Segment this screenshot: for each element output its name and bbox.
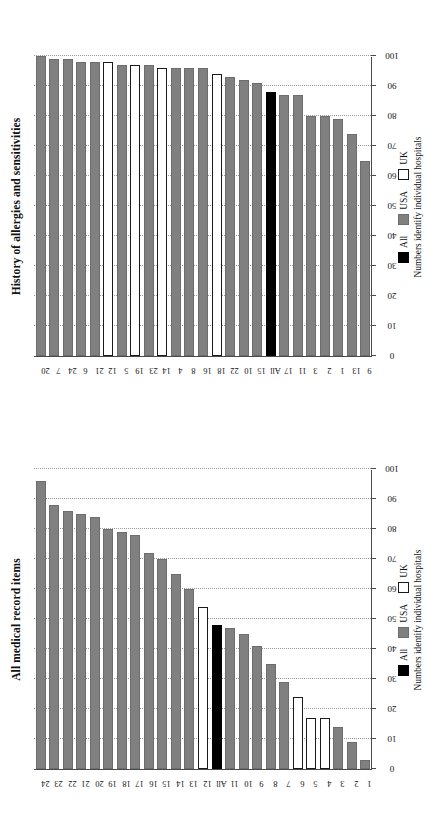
plot-area-wrapper: Per cent meeting screening criteria 0102… bbox=[34, 470, 372, 770]
axis-tick bbox=[371, 528, 376, 529]
legend: AllUSAUK Numbers identify individual hos… bbox=[398, 470, 423, 770]
legend-item-uk: UK bbox=[398, 151, 409, 180]
category-label: 24 bbox=[68, 366, 76, 375]
category-label: 23 bbox=[55, 779, 63, 788]
legend-swatch-uk-icon bbox=[398, 582, 409, 593]
bar bbox=[212, 625, 222, 769]
category-label: 22 bbox=[68, 779, 76, 788]
bar bbox=[239, 80, 249, 356]
category-label: 6 bbox=[300, 779, 304, 788]
category-label: 5 bbox=[314, 779, 318, 788]
bar bbox=[90, 62, 100, 356]
bar bbox=[171, 574, 181, 769]
category-label: 8 bbox=[273, 779, 277, 788]
axis-tick bbox=[371, 738, 376, 739]
bar bbox=[184, 589, 194, 769]
axis-tick bbox=[371, 588, 376, 589]
bar bbox=[266, 92, 276, 356]
axis-tick-label: 80 bbox=[388, 524, 397, 534]
category-label: 4 bbox=[327, 779, 331, 788]
axis-tick bbox=[371, 618, 376, 619]
bar bbox=[130, 65, 140, 356]
category-label: 7 bbox=[57, 366, 61, 375]
bar bbox=[347, 134, 357, 356]
axis-tick-label: 10 bbox=[388, 321, 397, 331]
legend-swatch-usa-icon bbox=[398, 627, 409, 638]
category-label: 11 bbox=[298, 366, 306, 375]
bar bbox=[103, 529, 113, 769]
bar bbox=[360, 161, 370, 356]
legend-label: USA bbox=[399, 604, 409, 623]
bar bbox=[252, 646, 262, 769]
category-label: 3 bbox=[341, 779, 345, 788]
axis-tick-label: 20 bbox=[388, 291, 397, 301]
category-label: 12 bbox=[109, 366, 117, 375]
category-label: 12 bbox=[203, 779, 211, 788]
axis-tick-label: 90 bbox=[388, 81, 397, 91]
figure-stage: All medical record items Per cent meetin… bbox=[0, 0, 436, 826]
bar bbox=[360, 760, 370, 769]
category-label: 19 bbox=[136, 366, 144, 375]
category-label: 16 bbox=[149, 779, 157, 788]
category-label: All bbox=[270, 366, 281, 375]
legend-item-all: All bbox=[398, 649, 409, 676]
bar bbox=[157, 68, 167, 356]
legend-items: AllUSAUK bbox=[398, 57, 409, 357]
legend-label: USA bbox=[399, 191, 409, 210]
category-label: 9 bbox=[368, 366, 372, 375]
axis-tick bbox=[371, 175, 376, 176]
category-label: 20 bbox=[41, 366, 49, 375]
axis-tick-label: 80 bbox=[388, 111, 397, 121]
axis-tick bbox=[371, 265, 376, 266]
bar bbox=[320, 718, 330, 769]
category-label: 15 bbox=[163, 779, 171, 788]
axis-tick-label: 30 bbox=[388, 674, 397, 684]
legend-item-usa: USA bbox=[398, 191, 409, 225]
legend-items: AllUSAUK bbox=[398, 470, 409, 770]
category-label: 22 bbox=[230, 366, 238, 375]
plot-area: 0102030405060708090100 bbox=[34, 57, 372, 357]
bar bbox=[49, 59, 59, 356]
axis-tick bbox=[371, 115, 376, 116]
axis-tick-label: 0 bbox=[390, 764, 395, 774]
axis-tick bbox=[371, 145, 376, 146]
category-label: 9 bbox=[259, 779, 263, 788]
axis-tick-label: 20 bbox=[388, 704, 397, 714]
bar bbox=[63, 59, 73, 356]
legend-item-usa: USA bbox=[398, 604, 409, 638]
chart-panel-all-medical-record-items: All medical record items Per cent meetin… bbox=[0, 413, 436, 826]
bar bbox=[293, 95, 303, 356]
bar bbox=[184, 68, 194, 356]
category-label: 17 bbox=[284, 366, 292, 375]
category-label: 2 bbox=[354, 779, 358, 788]
legend-swatch-all-icon bbox=[398, 252, 409, 263]
axis-tick bbox=[371, 55, 376, 56]
axis-tick-label: 10 bbox=[388, 734, 397, 744]
gridline bbox=[34, 498, 371, 499]
category-label: All bbox=[216, 779, 227, 788]
axis-tick-label: 70 bbox=[388, 554, 397, 564]
axis-tick bbox=[371, 325, 376, 326]
legend-swatch-usa-icon bbox=[398, 214, 409, 225]
category-label: 20 bbox=[95, 779, 103, 788]
bar bbox=[130, 535, 140, 769]
category-label: 10 bbox=[244, 366, 252, 375]
gridline bbox=[34, 468, 371, 469]
axis-tick bbox=[371, 648, 376, 649]
bar bbox=[279, 682, 289, 769]
axis-tick-label: 0 bbox=[390, 351, 395, 361]
category-label: 16 bbox=[203, 366, 211, 375]
bar bbox=[225, 77, 235, 356]
category-label: 6 bbox=[84, 366, 88, 375]
legend-label: UK bbox=[399, 151, 409, 165]
axis-tick-label: 30 bbox=[388, 261, 397, 271]
axis-tick bbox=[371, 355, 376, 356]
bar bbox=[76, 514, 86, 769]
category-label: 24 bbox=[41, 779, 49, 788]
bar bbox=[36, 56, 46, 356]
bar bbox=[117, 65, 127, 356]
axis-tick bbox=[371, 768, 376, 769]
category-label: 13 bbox=[352, 366, 360, 375]
axis-tick-label: 60 bbox=[388, 171, 397, 181]
legend-swatch-all-icon bbox=[398, 665, 409, 676]
